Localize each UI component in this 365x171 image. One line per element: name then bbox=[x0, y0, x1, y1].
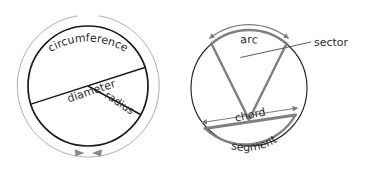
circumference-label: circumference bbox=[46, 31, 131, 54]
sector-label: sector bbox=[314, 36, 349, 49]
radius-label: radius bbox=[103, 88, 137, 116]
segment-label: segment bbox=[230, 133, 279, 154]
sector-shape bbox=[212, 44, 287, 120]
left-circle-figure: circumference diameter radius bbox=[17, 16, 159, 157]
circle-parts-diagram: circumference diameter radius arc se bbox=[0, 0, 365, 171]
arc-label: arc bbox=[240, 33, 259, 47]
circle-diagram-svg: circumference diameter radius arc se bbox=[0, 0, 365, 171]
circumference-arrow-left bbox=[75, 149, 85, 156]
circumference-arrow-right bbox=[92, 149, 102, 156]
right-circle-figure: arc sector chord segment bbox=[191, 25, 349, 154]
